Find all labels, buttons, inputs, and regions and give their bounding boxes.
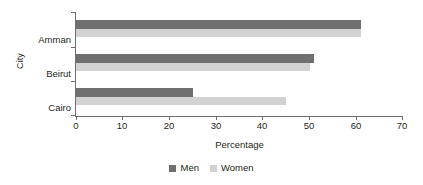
bar-women-cairo: [76, 97, 286, 105]
category-label-amman: Amman: [18, 35, 71, 45]
x-axis-tick-label: 20: [164, 120, 175, 131]
legend-item-women: Women: [210, 163, 254, 173]
x-axis-tick-label: 0: [73, 120, 78, 131]
chart-legend: Men Women: [0, 163, 423, 173]
y-axis-tick: [71, 47, 76, 48]
category-label-beirut: Beirut: [18, 69, 71, 79]
x-axis-title: Percentage: [76, 139, 403, 150]
plot-area: [76, 12, 403, 116]
x-axis-tick-label: 70: [397, 120, 408, 131]
category-axis-labels: Amman Beirut Cairo: [18, 12, 71, 116]
x-axis-tick-label: 40: [257, 120, 268, 131]
y-axis-tick: [71, 81, 76, 82]
x-axis-line: [75, 116, 403, 117]
bar-chart: City Amman Beirut Cairo 0 10 20 30 40 50: [0, 0, 423, 185]
bar-women-beirut: [76, 63, 310, 71]
legend-label-women: Women: [221, 163, 254, 173]
legend-item-men: Men: [169, 163, 198, 173]
x-axis-tick-label: 60: [351, 120, 362, 131]
bar-men-beirut: [76, 54, 314, 63]
x-axis-tick-label: 30: [211, 120, 222, 131]
x-axis-labels: 0 10 20 30 40 50 60 70: [76, 120, 403, 134]
bar-men-amman: [76, 20, 361, 29]
x-axis-tick-label: 10: [117, 120, 128, 131]
category-label-cairo: Cairo: [18, 103, 71, 113]
bar-men-cairo: [76, 88, 193, 97]
bar-women-amman: [76, 29, 361, 37]
legend-swatch-men: [169, 165, 176, 172]
y-axis-tick: [71, 12, 76, 13]
legend-label-men: Men: [180, 163, 198, 173]
x-axis-tick-label: 50: [304, 120, 315, 131]
legend-swatch-women: [210, 165, 217, 172]
